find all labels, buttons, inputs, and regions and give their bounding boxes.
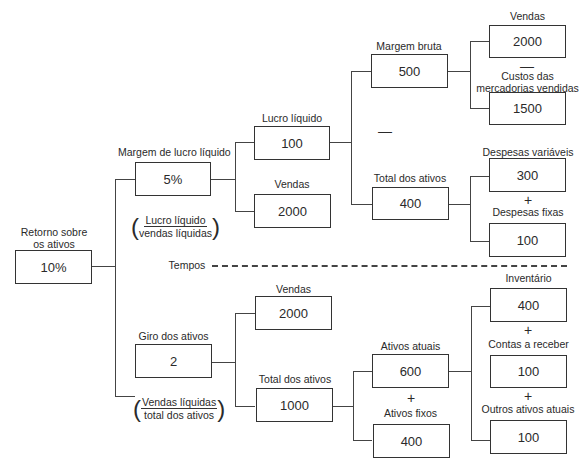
paren-right: ) bbox=[212, 215, 220, 239]
asset-turnover-box: 2 bbox=[135, 344, 212, 378]
net-profit-margin-formula: ( Lucro líquidovendas líquidas ) bbox=[131, 214, 220, 239]
net-profit-label: Lucro líquido bbox=[254, 112, 330, 125]
formula-numerator: Vendas líquidas bbox=[141, 396, 217, 409]
connector bbox=[449, 371, 471, 372]
connector bbox=[351, 204, 372, 205]
current-assets-box: 600 bbox=[372, 354, 449, 388]
formula-denominator: total dos ativos bbox=[144, 409, 214, 421]
connector bbox=[330, 142, 351, 143]
sales-bottom-label: Vendas bbox=[255, 283, 332, 296]
net-profit-margin-box: 5% bbox=[135, 162, 211, 196]
sales-bottom-box: 2000 bbox=[255, 296, 332, 330]
connector bbox=[470, 41, 489, 42]
inventory-label: Inventário bbox=[490, 272, 567, 285]
connector bbox=[115, 179, 116, 397]
total-assets-top-label: Total dos ativos bbox=[365, 172, 455, 185]
net-profit-margin-label: Margem de lucro líquido bbox=[118, 146, 228, 159]
connector bbox=[353, 371, 354, 440]
connector bbox=[449, 204, 470, 205]
connector bbox=[353, 371, 372, 372]
connector bbox=[211, 179, 235, 180]
fixed-assets-label: Ativos fixos bbox=[372, 407, 449, 420]
times-separator-line bbox=[212, 265, 567, 267]
connector bbox=[471, 306, 472, 440]
asset-turnover-label: Giro dos ativos bbox=[135, 330, 212, 343]
return-on-assets-box: 10% bbox=[15, 250, 92, 284]
connector bbox=[470, 108, 489, 109]
other-current-assets-box: 100 bbox=[490, 420, 567, 454]
sales-gm-box: 2000 bbox=[489, 25, 566, 58]
cogs-box: 1500 bbox=[489, 92, 566, 125]
plus-operator: + bbox=[518, 323, 538, 337]
connector bbox=[235, 313, 236, 406]
connector bbox=[333, 406, 353, 407]
gross-margin-label: Margem bruta bbox=[371, 40, 447, 53]
fixed-assets-box: 400 bbox=[373, 424, 450, 458]
connector bbox=[470, 241, 489, 242]
connector bbox=[235, 211, 254, 212]
asset-turnover-formula: ( Vendas líquidastotal dos ativos ) bbox=[133, 396, 225, 421]
sales-box: 2000 bbox=[254, 194, 331, 228]
connector bbox=[235, 313, 255, 314]
fixed-expenses-label: Despesas fixas bbox=[480, 206, 576, 219]
gross-margin-box: 500 bbox=[371, 54, 448, 88]
fixed-expenses-box: 100 bbox=[489, 223, 566, 257]
receivables-box: 100 bbox=[490, 355, 567, 388]
connector bbox=[115, 179, 135, 180]
net-profit-box: 100 bbox=[254, 126, 330, 160]
paren-right: ) bbox=[217, 397, 225, 421]
formula-denominator: vendas líquidas bbox=[139, 227, 212, 239]
connector bbox=[212, 362, 235, 363]
formula-numerator: Lucro líquido bbox=[144, 214, 206, 227]
connector bbox=[115, 396, 135, 397]
paren-left: ( bbox=[133, 397, 141, 421]
times-separator-label: Tempos bbox=[168, 259, 206, 272]
total-assets-top-box: 400 bbox=[372, 187, 449, 220]
inventory-box: 400 bbox=[490, 288, 567, 322]
sales-label: Vendas bbox=[254, 178, 330, 191]
connector bbox=[470, 41, 471, 109]
connector bbox=[471, 440, 490, 441]
connector bbox=[351, 71, 371, 72]
minus-operator: — bbox=[375, 124, 395, 138]
connector bbox=[353, 440, 372, 441]
connector bbox=[235, 142, 254, 143]
plus-operator: + bbox=[518, 389, 538, 403]
total-assets-bottom-box: 1000 bbox=[256, 388, 333, 422]
connector bbox=[448, 71, 470, 72]
connector bbox=[471, 306, 490, 307]
receivables-label: Contas a receber bbox=[480, 338, 577, 351]
plus-operator: + bbox=[401, 391, 421, 405]
other-current-assets-label: Outros ativos atuais bbox=[475, 403, 581, 416]
plus-operator: + bbox=[518, 193, 538, 207]
total-assets-bottom-label: Total dos ativos bbox=[250, 373, 340, 386]
connector bbox=[470, 176, 489, 177]
connector bbox=[470, 176, 471, 242]
connector bbox=[235, 142, 236, 211]
variable-expenses-box: 300 bbox=[489, 158, 566, 192]
connector bbox=[235, 406, 255, 407]
connector bbox=[92, 266, 115, 267]
connector bbox=[351, 71, 352, 205]
sales-gm-label: Vendas bbox=[489, 10, 566, 23]
current-assets-label: Ativos atuais bbox=[372, 340, 449, 353]
paren-left: ( bbox=[131, 215, 139, 239]
